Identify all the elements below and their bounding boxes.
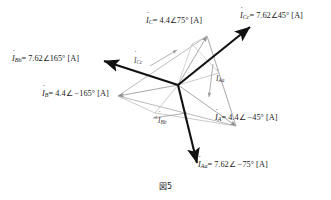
label-i-bb-inner-subscript: Bb — [160, 119, 166, 125]
label-i-b-symbol: I — [42, 89, 45, 98]
label-i-cc-value: = 7.62∠45° [A] — [249, 11, 302, 20]
figure-root: IC= 4.4∠75° [A] ICc= 7.62∠45° [A] IBb= 7… — [0, 0, 331, 200]
label-i-bb-symbol: I — [12, 54, 15, 63]
label-i-a-value: = 4.4∠ −45° [A] — [221, 113, 277, 122]
helper-arrow-i-cc — [150, 50, 177, 66]
vector-i-cc — [178, 27, 250, 85]
label-i-cc-inner-subscript: Cc — [136, 59, 142, 65]
label-i-aa-inner: IAa — [216, 75, 224, 84]
label-i-cc-inner: ICc — [134, 57, 142, 66]
label-i-c: IC= 4.4∠75° [A] — [146, 17, 202, 26]
helper-arrow-i-aa — [209, 64, 213, 97]
phasor-diagram-canvas — [0, 0, 331, 200]
label-i-a: IA= 4.4∠ −45° [A] — [215, 114, 278, 123]
label-i-c-symbol: I — [146, 16, 149, 25]
label-i-c-value: = 4.4∠75° [A] — [153, 16, 202, 25]
label-i-b: IB= 4.4∠ −165° [A] — [42, 90, 109, 99]
label-i-cc-symbol: I — [240, 11, 243, 20]
label-i-bb-inner: IBb — [158, 117, 166, 126]
label-i-aa-value: = 7.62∠ −75° [A] — [207, 160, 267, 169]
label-i-aa-symbol: I — [198, 160, 201, 169]
label-i-aa: IAa= 7.62∠ −75° [A] — [198, 161, 268, 170]
label-i-aa-inner-subscript: Aa — [218, 77, 224, 83]
label-i-bb-value: = 7.62∠165° [A] — [21, 54, 79, 63]
figure-caption: 図5 — [0, 180, 331, 191]
label-i-a-symbol: I — [215, 113, 218, 122]
label-i-cc: ICc= 7.62∠45° [A] — [240, 12, 303, 21]
label-i-bb: IBb= 7.62∠165° [A] — [12, 55, 79, 64]
vector-i-b — [118, 85, 178, 96]
label-i-b-value: = 4.4∠ −165° [A] — [48, 89, 108, 98]
